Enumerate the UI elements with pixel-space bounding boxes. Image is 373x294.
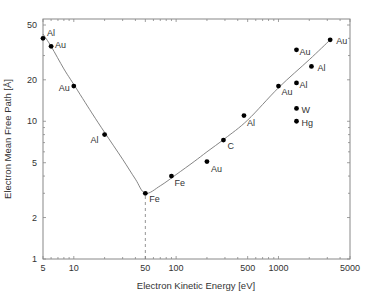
data-point <box>294 106 299 111</box>
x-tick-label: 10 <box>69 263 79 273</box>
data-point <box>221 138 226 143</box>
curve-path <box>43 34 330 193</box>
point-label: Au <box>281 87 292 97</box>
data-point <box>102 132 107 137</box>
y-tick-label: 50 <box>27 20 37 30</box>
point-label: Fe <box>174 178 185 188</box>
point-label: Fe <box>149 194 160 204</box>
data-point <box>169 174 174 179</box>
data-point <box>205 159 210 164</box>
tick-labels: 5105010050010005000125102050 <box>27 20 360 273</box>
point-label: Al <box>247 118 255 128</box>
point-label: Al <box>299 80 307 90</box>
point-label: W <box>301 105 310 115</box>
x-tick-label: 100 <box>169 263 184 273</box>
point-label: Al <box>47 28 55 38</box>
data-point <box>328 37 333 42</box>
x-tick-label: 50 <box>140 263 150 273</box>
point-label: Hg <box>301 118 313 128</box>
data-point <box>49 44 54 49</box>
chart-svg: 5105010050010005000125102050 AlAuAuAlFeF… <box>0 0 373 294</box>
data-point <box>294 119 299 124</box>
y-tick-label: 10 <box>27 116 37 126</box>
y-axis-label: Electron Mean Free Path [Å] <box>2 79 13 199</box>
x-axis-label: Electron Kinetic Energy [eV] <box>137 280 255 291</box>
point-label: Al <box>91 135 99 145</box>
data-point <box>71 84 76 89</box>
x-tick-label: 500 <box>240 263 255 273</box>
mean-free-path-chart: 5105010050010005000125102050 AlAuAuAlFeF… <box>0 0 373 294</box>
y-tick-label: 2 <box>32 213 37 223</box>
data-point <box>143 191 148 196</box>
data-point <box>276 84 281 89</box>
point-label: Au <box>55 40 66 50</box>
point-label: Au <box>299 47 310 57</box>
y-tick-label: 1 <box>32 254 37 264</box>
point-label: Au <box>336 36 347 46</box>
y-tick-label: 20 <box>27 75 37 85</box>
x-tick-label: 5 <box>40 263 45 273</box>
data-point <box>294 47 299 52</box>
data-point <box>309 64 314 69</box>
point-label: Au <box>59 83 70 93</box>
data-point <box>294 80 299 85</box>
data-points: AlAuAuAlFeFeAuCAlAuAuAuAlAlWHg <box>41 28 348 204</box>
point-label: C <box>227 141 234 151</box>
x-tick-label: 1000 <box>268 263 288 273</box>
data-point <box>41 36 46 41</box>
x-tick-label: 5000 <box>340 263 360 273</box>
point-label: Al <box>317 63 325 73</box>
y-tick-label: 5 <box>32 158 37 168</box>
point-label: Au <box>211 164 222 174</box>
data-point <box>242 113 247 118</box>
universal-curve <box>43 34 330 193</box>
